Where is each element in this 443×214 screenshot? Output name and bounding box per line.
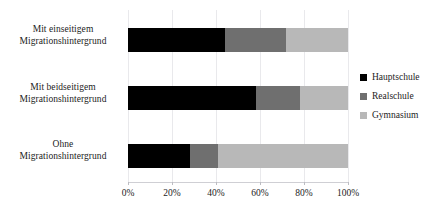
- legend-label: Gymnasium: [372, 110, 418, 121]
- category-label-line-1: Mit beidseitigem: [2, 82, 124, 94]
- category-label-line-2: Migrationshintergrund: [2, 94, 124, 106]
- x-tick-label: 80%: [282, 188, 326, 199]
- category-label-line-1: Ohne: [2, 139, 124, 151]
- x-axis-line: [128, 182, 348, 183]
- bar-segment-gymnasium: [300, 86, 348, 110]
- category-label-1: Mit beidseitigem Migrationshintergrund: [2, 82, 124, 105]
- category-label-2: Ohne Migrationshintergrund: [2, 139, 124, 162]
- bar-segment-realschule: [256, 86, 300, 110]
- bar-row: [128, 144, 348, 168]
- bar-row: [128, 28, 348, 52]
- legend-item: Hauptschule: [360, 68, 442, 87]
- legend: HauptschuleRealschuleGymnasium: [360, 68, 442, 125]
- legend-label: Realschule: [372, 91, 414, 102]
- bar-segment-gymnasium: [218, 144, 348, 168]
- legend-swatch-icon: [360, 112, 367, 119]
- legend-item: Gymnasium: [360, 106, 442, 125]
- x-tick-label: 0%: [106, 188, 150, 199]
- tickmark: [260, 182, 261, 185]
- x-tick-label: 20%: [150, 188, 194, 199]
- bar-segment-realschule: [190, 144, 219, 168]
- tickmark: [128, 182, 129, 185]
- gridline: [348, 10, 349, 182]
- bar-segment-gymnasium: [286, 28, 348, 52]
- plot-area: [128, 10, 348, 182]
- legend-item: Realschule: [360, 87, 442, 106]
- tickmark: [348, 182, 349, 185]
- legend-swatch-icon: [360, 93, 367, 100]
- category-label-line-2: Migrationshintergrund: [2, 151, 124, 163]
- bar-segment-realschule: [225, 28, 287, 52]
- legend-label: Hauptschule: [372, 72, 420, 83]
- tickmark: [304, 182, 305, 185]
- x-tick-label: 60%: [238, 188, 282, 199]
- category-label-line-2: Migrationshintergrund: [2, 36, 124, 48]
- bar-segment-hauptschule: [128, 144, 190, 168]
- x-tick-label: 40%: [194, 188, 238, 199]
- stacked-bar-chart: Mit einseitigem Migrationshintergrund Mi…: [0, 0, 443, 214]
- bar-segment-hauptschule: [128, 86, 256, 110]
- bar-segment-hauptschule: [128, 28, 225, 52]
- legend-swatch-icon: [360, 74, 367, 81]
- x-tick-label: 100%: [326, 188, 370, 199]
- bar-row: [128, 86, 348, 110]
- tickmark: [172, 182, 173, 185]
- category-label-line-1: Mit einseitigem: [2, 24, 124, 36]
- category-label-0: Mit einseitigem Migrationshintergrund: [2, 24, 124, 47]
- tickmark: [216, 182, 217, 185]
